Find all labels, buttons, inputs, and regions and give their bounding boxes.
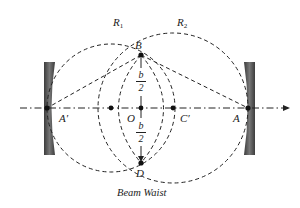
label-o: O: [127, 113, 135, 124]
point-c-prime: [171, 106, 176, 111]
label-d: D: [136, 168, 144, 179]
caption-beam-waist: Beam Waist: [117, 187, 167, 198]
fraction-b-half-bottom: b 2: [136, 121, 146, 144]
label-a-prime: A′: [59, 113, 68, 124]
label-a: A: [233, 113, 240, 124]
resonator-diagram: [0, 0, 300, 208]
point-b: [138, 52, 143, 57]
axis-arrow-icon: [283, 105, 290, 111]
point-a: [245, 105, 250, 110]
line-b-a: [141, 55, 248, 108]
point-left-center: [109, 106, 114, 111]
point-d: [138, 160, 143, 165]
point-a-prime: [44, 105, 49, 110]
label-b: B: [135, 40, 142, 51]
fraction-b-half-top: b 2: [136, 70, 146, 93]
label-c-prime: C′: [180, 113, 190, 124]
line-b-aprime: [47, 55, 141, 108]
label-r2: R2: [177, 17, 187, 30]
label-r1: R1: [113, 17, 123, 30]
point-o: [139, 106, 144, 111]
